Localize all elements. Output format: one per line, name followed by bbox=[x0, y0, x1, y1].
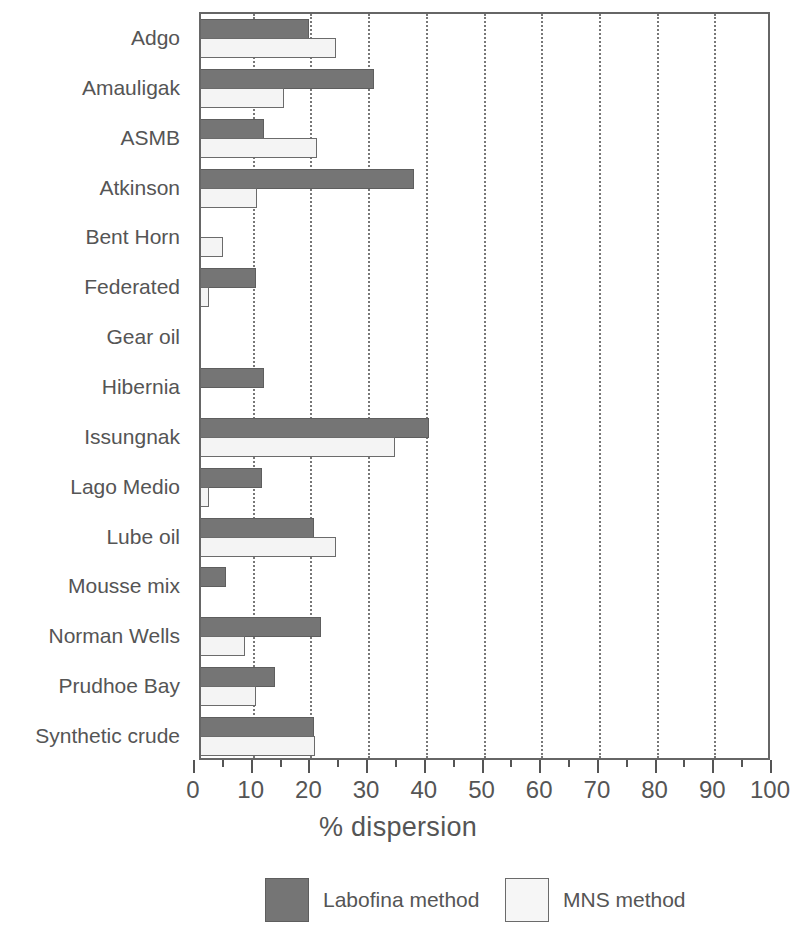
bar-labofina bbox=[201, 518, 314, 538]
bar-group bbox=[201, 463, 768, 513]
bar-group bbox=[201, 263, 768, 313]
x-tick-label-20: 20 bbox=[295, 776, 322, 804]
x-tick-minor-35 bbox=[395, 760, 397, 767]
x-tick-label-100: 100 bbox=[750, 776, 790, 804]
category-label: Gear oil bbox=[106, 326, 180, 347]
category-label: Mousse mix bbox=[68, 575, 180, 596]
bar-labofina bbox=[201, 617, 321, 637]
x-tick-major-50 bbox=[482, 760, 484, 773]
bar-group bbox=[201, 513, 768, 563]
plot-area bbox=[199, 12, 770, 760]
category-label: Adgo bbox=[131, 26, 180, 47]
x-tick-major-30 bbox=[366, 760, 368, 773]
bar-mns bbox=[201, 88, 284, 108]
x-tick-label-90: 90 bbox=[699, 776, 726, 804]
bar-labofina bbox=[201, 667, 275, 687]
x-tick-major-0 bbox=[193, 760, 195, 773]
bar-mns bbox=[201, 487, 209, 507]
dispersion-bar-chart: AdgoAmauligakASMBAtkinsonBent HornFedera… bbox=[0, 0, 796, 941]
x-tick-minor-15 bbox=[280, 760, 282, 767]
x-tick-label-80: 80 bbox=[641, 776, 668, 804]
x-tick-minor-45 bbox=[453, 760, 455, 767]
x-tick-minor-65 bbox=[568, 760, 570, 767]
bar-group bbox=[201, 662, 768, 712]
x-tick-label-30: 30 bbox=[353, 776, 380, 804]
bar-mns bbox=[201, 188, 257, 208]
x-tick-label-10: 10 bbox=[237, 776, 264, 804]
bar-group bbox=[201, 563, 768, 613]
bar-group bbox=[201, 612, 768, 662]
bar-labofina bbox=[201, 567, 226, 587]
category-label: Bent Horn bbox=[85, 226, 180, 247]
bar-group bbox=[201, 164, 768, 214]
x-tick-major-40 bbox=[424, 760, 426, 773]
x-tick-major-10 bbox=[251, 760, 253, 773]
category-label: Amauligak bbox=[82, 76, 180, 97]
x-tick-major-60 bbox=[539, 760, 541, 773]
category-label: Atkinson bbox=[99, 176, 180, 197]
bar-mns bbox=[201, 38, 336, 58]
bar-labofina bbox=[201, 418, 429, 438]
category-label: Prudhoe Bay bbox=[59, 675, 180, 696]
x-tick-minor-95 bbox=[741, 760, 743, 767]
bar-mns bbox=[201, 537, 336, 557]
bar-labofina bbox=[201, 717, 314, 737]
category-label: Issungnak bbox=[84, 425, 180, 446]
bar-group bbox=[201, 712, 768, 758]
category-label: Federated bbox=[84, 276, 180, 297]
x-tick-label-60: 60 bbox=[526, 776, 553, 804]
bar-labofina bbox=[201, 268, 256, 288]
category-label: Lube oil bbox=[106, 525, 180, 546]
x-axis-ticks bbox=[199, 760, 770, 774]
bar-mns bbox=[201, 437, 395, 457]
category-axis-labels: AdgoAmauligakASMBAtkinsonBent HornFedera… bbox=[0, 12, 190, 760]
x-axis-title: % dispersion bbox=[0, 812, 796, 843]
category-label: Norman Wells bbox=[49, 625, 180, 646]
bar-group bbox=[201, 14, 768, 64]
bar-labofina bbox=[201, 368, 264, 388]
bar-labofina bbox=[201, 19, 309, 39]
x-tick-major-100 bbox=[770, 760, 772, 773]
bar-group bbox=[201, 213, 768, 263]
category-label: Synthetic crude bbox=[35, 725, 180, 746]
legend-label: MNS method bbox=[563, 888, 686, 912]
x-tick-label-40: 40 bbox=[410, 776, 437, 804]
x-tick-label-70: 70 bbox=[584, 776, 611, 804]
x-tick-minor-75 bbox=[626, 760, 628, 767]
x-tick-minor-5 bbox=[222, 760, 224, 767]
legend-swatch-icon bbox=[265, 878, 309, 922]
bar-group bbox=[201, 64, 768, 114]
bar-mns bbox=[201, 736, 315, 756]
legend-entry: Labofina method bbox=[265, 878, 479, 922]
x-tick-label-50: 50 bbox=[468, 776, 495, 804]
bar-group bbox=[201, 363, 768, 413]
plot-surface bbox=[201, 14, 768, 758]
bar-mns bbox=[201, 138, 317, 158]
bar-mns bbox=[201, 237, 223, 257]
x-tick-minor-85 bbox=[683, 760, 685, 767]
category-label: Lago Medio bbox=[70, 475, 180, 496]
x-tick-label-0: 0 bbox=[186, 776, 199, 804]
bar-group bbox=[201, 413, 768, 463]
legend-entry: MNS method bbox=[505, 878, 686, 922]
bar-group bbox=[201, 313, 768, 363]
bar-mns bbox=[201, 287, 209, 307]
chart-legend: Labofina methodMNS method bbox=[0, 878, 796, 924]
x-axis-tick-labels: 0102030405060708090100 bbox=[0, 776, 796, 806]
x-tick-major-20 bbox=[308, 760, 310, 773]
bar-labofina bbox=[201, 69, 374, 89]
x-tick-major-90 bbox=[712, 760, 714, 773]
bar-mns bbox=[201, 686, 256, 706]
x-tick-major-70 bbox=[597, 760, 599, 773]
bar-labofina bbox=[201, 468, 262, 488]
bar-labofina bbox=[201, 169, 414, 189]
x-tick-minor-25 bbox=[337, 760, 339, 767]
bar-labofina bbox=[201, 119, 264, 139]
legend-label: Labofina method bbox=[323, 888, 479, 912]
legend-swatch-icon bbox=[505, 878, 549, 922]
category-label: ASMB bbox=[120, 126, 180, 147]
bar-mns bbox=[201, 636, 245, 656]
x-tick-minor-55 bbox=[510, 760, 512, 767]
category-label: Hibernia bbox=[102, 376, 180, 397]
bar-group bbox=[201, 114, 768, 164]
